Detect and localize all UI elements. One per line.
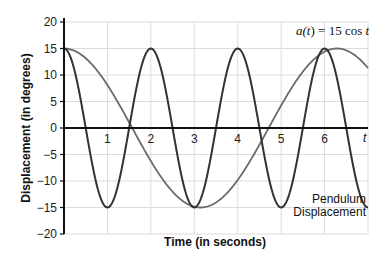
x-tick-label: 6 [321, 132, 328, 146]
pendulum-label-line2: Displacement [293, 205, 366, 219]
chart: 20151050−5−10−15−20123456 Time (in secon… [0, 0, 385, 261]
eq-a: a( [296, 23, 308, 38]
y-tick-label: 5 [50, 95, 57, 109]
y-tick-label: −5 [43, 148, 57, 162]
y-tick-label: 20 [44, 15, 58, 29]
y-tick-label: 10 [44, 68, 58, 82]
x-axis-title: Time (in seconds) [164, 235, 266, 249]
x-tick-label: 5 [278, 132, 285, 146]
eq-rest: ) = 15 cos [310, 23, 365, 38]
y-tick-label: −20 [37, 227, 58, 241]
y-axis-title: Displacement (in degrees) [19, 53, 33, 202]
y-tick-label: 15 [44, 42, 58, 56]
y-tick-label: −10 [37, 174, 58, 188]
x-tick-label: 2 [148, 132, 155, 146]
x-tick-label: 3 [191, 132, 198, 146]
t-axis-symbol: t [363, 131, 367, 145]
equation-label: a(t) = 15 cos t [296, 23, 369, 38]
y-tick-label: 0 [50, 121, 57, 135]
y-tick-label: −15 [37, 201, 58, 215]
x-tick-label: 4 [234, 132, 241, 146]
pendulum-label-line1: Pendulum [312, 192, 366, 206]
eq-t2: t [365, 23, 369, 38]
x-tick-label: 1 [104, 132, 111, 146]
